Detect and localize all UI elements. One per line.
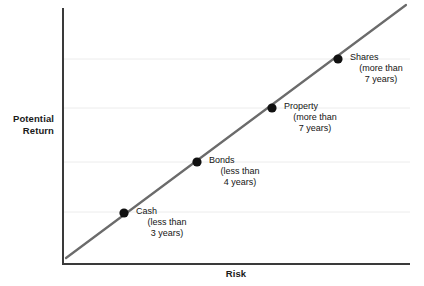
label-cash: Cash (less than 3 years) [125, 206, 209, 240]
label-shares-line1: Shares [339, 52, 423, 63]
label-cash-line2: (less than [125, 217, 209, 228]
axes [62, 8, 410, 264]
label-bonds-line3: 4 years) [198, 177, 282, 188]
label-bonds: Bonds (less than 4 years) [198, 155, 282, 189]
label-property-line3: 7 years) [273, 123, 357, 134]
y-axis-title-line2: Return [23, 125, 54, 136]
label-property-line1: Property [273, 101, 357, 112]
label-shares-line2: (more than [339, 63, 423, 74]
label-cash-line1: Cash [125, 206, 209, 217]
label-bonds-line1: Bonds [198, 155, 282, 166]
chart-canvas [0, 0, 424, 286]
label-shares-line3: 7 years) [339, 74, 423, 85]
y-axis-title: PotentialReturn [0, 113, 54, 136]
label-cash-line3: 3 years) [125, 228, 209, 239]
x-axis-title: Risk [62, 268, 410, 280]
y-axis-title-line1: Potential [13, 113, 54, 124]
label-property-line2: (more than [273, 112, 357, 123]
label-shares: Shares (more than 7 years) [339, 52, 423, 86]
label-bonds-line2: (less than [198, 166, 282, 177]
risk-return-chart: PotentialReturn Risk Cash (less than 3 y… [0, 0, 424, 286]
label-property: Property (more than 7 years) [273, 101, 357, 135]
